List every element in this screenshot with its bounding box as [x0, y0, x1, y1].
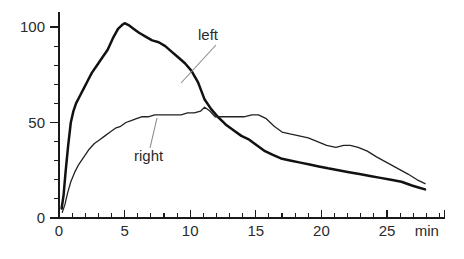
- chart-figure: 0510152025min050100 leftright: [0, 0, 464, 259]
- series-curve-right: [62, 107, 425, 212]
- line-chart-plot: 0510152025min050100 leftright: [0, 0, 464, 259]
- y-axis-tick-label: 100: [20, 18, 45, 35]
- x-axis-tick-label: 25: [379, 222, 396, 239]
- annotation-leader-line-right: [150, 118, 157, 148]
- x-axis-unit-label: min: [415, 222, 439, 239]
- series-curve-left: [62, 23, 425, 208]
- series-label-right: right: [134, 147, 164, 164]
- x-axis-tick-label: 15: [247, 222, 264, 239]
- x-axis-tick-label: 10: [182, 222, 199, 239]
- chart-series-annotations: leftright: [134, 26, 219, 164]
- chart-series-curves: [62, 23, 425, 212]
- y-axis-tick-label: 0: [37, 209, 45, 226]
- x-axis-tick-label: 20: [313, 222, 330, 239]
- x-axis-tick-label: 5: [120, 222, 128, 239]
- chart-tick-marks: [50, 27, 445, 218]
- y-axis-tick-label: 50: [28, 114, 45, 131]
- x-axis-tick-label: 0: [55, 222, 63, 239]
- series-label-left: left: [198, 26, 219, 43]
